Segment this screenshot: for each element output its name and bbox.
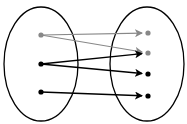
set-element-d1 <box>38 32 43 37</box>
set-element-c1 <box>145 30 150 35</box>
set-element-c3 <box>145 71 150 76</box>
set-element-c4 <box>145 93 150 98</box>
mapping-arrow-d1-c2 <box>41 35 142 52</box>
codomain-set-ellipse <box>110 7 184 121</box>
set-element-d3 <box>38 89 43 94</box>
mapping-arrow-d1-c1 <box>41 33 142 35</box>
mapping-arrow-d2-c3 <box>41 64 142 73</box>
mapping-arrow-d2-c2 <box>41 54 142 64</box>
set-element-c2 <box>145 50 150 55</box>
mapping-diagram <box>0 0 187 124</box>
set-element-d2 <box>38 61 43 66</box>
mapping-arrow-d3-c4 <box>41 92 142 96</box>
